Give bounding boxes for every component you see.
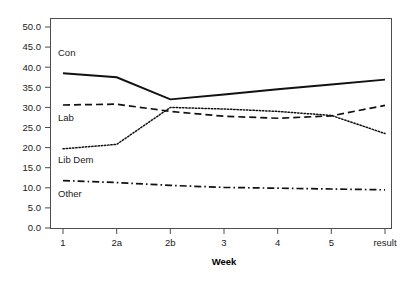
y-tick-label: 45.0 — [23, 41, 42, 52]
x-tick-label: 2a — [111, 237, 122, 248]
line-chart: 0.0 5.0 10.0 15.0 20.0 25.0 30.0 35.0 40… — [0, 0, 416, 283]
x-tick-label: 3 — [221, 237, 226, 248]
y-axis-ticks — [45, 27, 51, 228]
series-line-lib-dem — [63, 107, 385, 148]
series-labels: Con Lab Lib Dem Other — [58, 47, 93, 199]
series-group — [63, 73, 385, 190]
x-tick-label: result — [373, 237, 397, 248]
x-tick-label: 2b — [165, 237, 176, 248]
y-tick-label: 10.0 — [23, 182, 42, 193]
y-tick-label: 30.0 — [23, 102, 42, 113]
x-axis-title: Week — [212, 256, 237, 267]
chart-container: 0.0 5.0 10.0 15.0 20.0 25.0 30.0 35.0 40… — [0, 0, 416, 283]
y-tick-label: 25.0 — [23, 122, 42, 133]
series-label-con: Con — [58, 47, 75, 58]
x-axis-ticks — [63, 229, 385, 235]
series-label-lib-dem: Lib Dem — [58, 154, 93, 165]
y-tick-label: 35.0 — [23, 82, 42, 93]
y-tick-label: 15.0 — [23, 162, 42, 173]
plot-frame — [51, 19, 392, 229]
x-axis-tick-labels: 1 2a 2b 3 4 5 result — [60, 237, 397, 248]
y-tick-label: 40.0 — [23, 62, 42, 73]
series-line-lab — [63, 104, 385, 118]
series-line-other — [63, 181, 385, 190]
y-tick-label: 0.0 — [28, 222, 41, 233]
x-tick-label: 5 — [329, 237, 334, 248]
series-label-lab: Lab — [58, 112, 74, 123]
y-tick-label: 20.0 — [23, 142, 42, 153]
x-tick-label: 4 — [275, 237, 280, 248]
x-tick-label: 1 — [60, 237, 65, 248]
y-axis-tick-labels: 0.0 5.0 10.0 15.0 20.0 25.0 30.0 35.0 40… — [23, 21, 42, 233]
series-label-other: Other — [58, 188, 82, 199]
y-tick-label: 5.0 — [28, 202, 41, 213]
y-tick-label: 50.0 — [23, 21, 42, 32]
series-line-con — [63, 73, 385, 99]
